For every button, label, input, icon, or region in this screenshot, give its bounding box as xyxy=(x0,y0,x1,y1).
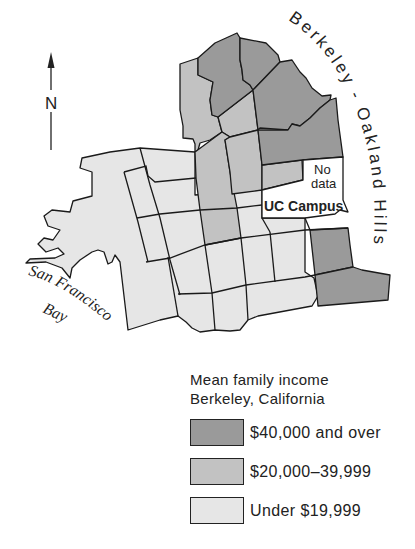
legend-item-low: Under $19,999 xyxy=(190,496,381,525)
no-data-label-line1: No xyxy=(314,162,331,177)
legend: Mean family income Berkeley, California … xyxy=(190,370,381,525)
legend-swatch-mid xyxy=(190,458,244,485)
legend-title-line2: Berkeley, California xyxy=(190,389,381,408)
legend-item-high: $40,000 and over xyxy=(190,418,381,447)
legend-label-high: $40,000 and over xyxy=(250,424,381,442)
tract-mid-center-col2 xyxy=(225,130,262,194)
bay-label-line2: Bay xyxy=(40,299,71,326)
legend-label-mid: $20,000–39,999 xyxy=(250,463,371,481)
legend-title-line1: Mean family income xyxy=(190,370,381,389)
legend-item-mid: $20,000–39,999 xyxy=(190,457,381,486)
legend-swatch-low xyxy=(190,497,244,524)
legend-label-low: Under $19,999 xyxy=(250,502,361,520)
legend-swatch-high xyxy=(190,419,244,446)
no-data-label-line2: data xyxy=(311,176,337,191)
tract-high-se-block xyxy=(315,267,390,306)
north-label: N xyxy=(45,94,57,113)
uc-campus-label: UC Campus xyxy=(264,198,344,214)
